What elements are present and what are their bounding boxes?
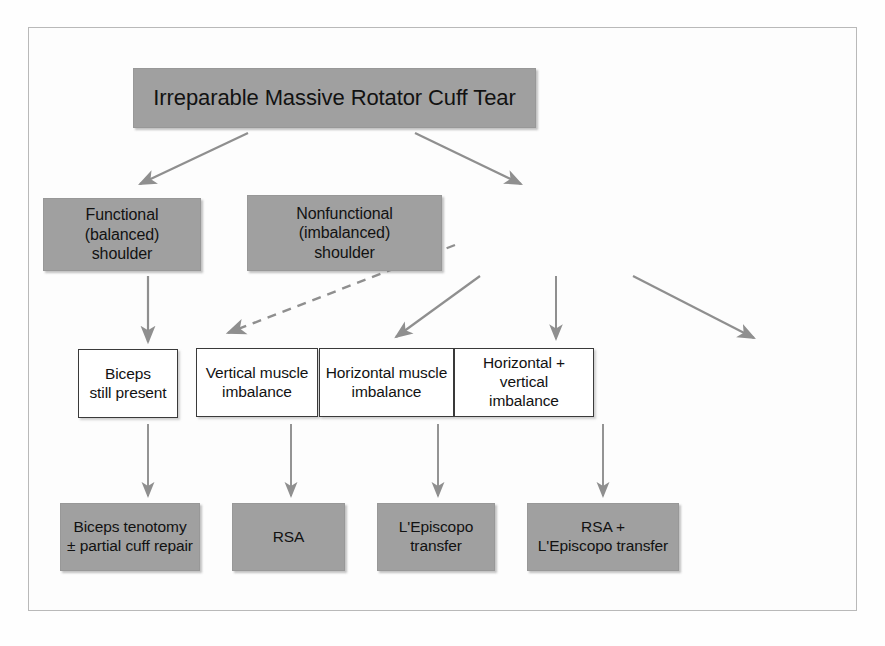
- node-nonfunctional-label: Nonfunctional (imbalanced) shoulder: [248, 204, 441, 263]
- node-vertical-muscle-imbalance[interactable]: Vertical muscle imbalance: [196, 348, 318, 417]
- node-rsa[interactable]: RSA: [232, 503, 345, 571]
- node-functional-line1: Functional (balanced): [85, 206, 160, 243]
- node-biceps-present-line1: Biceps: [105, 365, 151, 382]
- node-horizontal-imbalance-label: Horizontal muscle imbalance: [320, 364, 453, 402]
- node-nonfunctional-line2: shoulder: [314, 244, 375, 261]
- node-rsa-lepiscopo-line1: RSA +: [581, 518, 625, 535]
- node-biceps-present-line2: still present: [89, 384, 166, 401]
- node-lepiscopo-line2: transfer: [410, 537, 462, 554]
- node-biceps-tenotomy-label: Biceps tenotomy ± partial cuff repair: [61, 518, 199, 556]
- node-horizontal-imbalance-line2: imbalance: [352, 383, 422, 400]
- node-functional-line2: shoulder: [92, 245, 153, 262]
- node-rsa-label: RSA: [233, 528, 344, 547]
- node-vertical-imbalance-label: Vertical muscle imbalance: [197, 364, 317, 402]
- node-irreparable-massive-rotator-cuff-tear[interactable]: Irreparable Massive Rotator Cuff Tear: [133, 68, 536, 128]
- node-root-label: Irreparable Massive Rotator Cuff Tear: [134, 85, 535, 112]
- node-vertical-imbalance-line2: imbalance: [222, 383, 292, 400]
- node-horizontal-vertical-imbalance-line2: imbalance: [489, 392, 559, 409]
- node-horizontal-muscle-imbalance[interactable]: Horizontal muscle imbalance: [319, 348, 454, 417]
- node-functional-shoulder[interactable]: Functional (balanced) shoulder: [43, 198, 201, 271]
- node-rsa-lepiscopo-line2: L'Episcopo transfer: [538, 537, 668, 554]
- node-horizontal-plus-vertical-imbalance[interactable]: Horizontal + vertical imbalance: [454, 348, 594, 417]
- node-rsa-plus-lepiscopo-transfer[interactable]: RSA + L'Episcopo transfer: [527, 503, 679, 571]
- node-biceps-tenotomy-line1: Biceps tenotomy: [73, 518, 186, 535]
- node-biceps-tenotomy[interactable]: Biceps tenotomy ± partial cuff repair: [60, 503, 200, 571]
- node-biceps-still-present[interactable]: Biceps still present: [78, 349, 178, 418]
- figure-canvas: Irreparable Massive Rotator Cuff Tear Fu…: [0, 0, 885, 646]
- node-biceps-present-label: Biceps still present: [79, 365, 177, 403]
- node-horizontal-vertical-imbalance-label: Horizontal + vertical imbalance: [455, 354, 593, 411]
- node-rsa-lepiscopo-label: RSA + L'Episcopo transfer: [528, 518, 678, 556]
- node-lepiscopo-transfer[interactable]: L'Episcopo transfer: [377, 503, 495, 571]
- node-lepiscopo-label: L'Episcopo transfer: [378, 518, 494, 556]
- node-horizontal-vertical-imbalance-line1: Horizontal + vertical: [483, 354, 565, 390]
- node-horizontal-imbalance-line1: Horizontal muscle: [326, 364, 447, 381]
- node-biceps-tenotomy-line2: ± partial cuff repair: [67, 537, 193, 554]
- node-vertical-imbalance-line1: Vertical muscle: [206, 364, 309, 381]
- node-lepiscopo-line1: L'Episcopo: [399, 518, 473, 535]
- node-nonfunctional-line1: Nonfunctional (imbalanced): [296, 205, 393, 242]
- node-nonfunctional-shoulder[interactable]: Nonfunctional (imbalanced) shoulder: [247, 195, 442, 271]
- node-functional-label: Functional (balanced) shoulder: [44, 205, 200, 264]
